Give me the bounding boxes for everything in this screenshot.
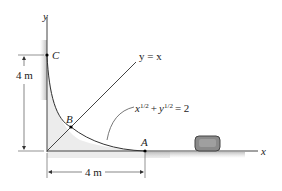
curve-label-leader [107, 107, 134, 140]
line-y-equals-x [47, 62, 136, 151]
ground-shading [145, 152, 245, 158]
curve-label-exp-x: 1/2 [140, 102, 149, 110]
crate-highlight [199, 139, 216, 147]
point-a-label: A [140, 136, 148, 148]
dim-h-arrow-right [140, 170, 144, 174]
point-b-marker [69, 125, 72, 128]
dim-v-arrow-top [22, 56, 26, 60]
point-c-label: C [52, 49, 60, 61]
curve-label: x1/2+y1/2= 2 [134, 102, 189, 114]
x-axis-label: x [260, 145, 266, 157]
point-b-label: B [66, 113, 73, 125]
curve-label-eq: = 2 [175, 102, 189, 114]
point-c-marker [45, 53, 48, 56]
dim-vertical-label: 4 m [16, 69, 33, 81]
curve-label-exp-y: 1/2 [164, 102, 173, 110]
diagram-canvas: y x C B A y = x x1/2+y1/2= 2 4 m 4 m [0, 0, 282, 191]
point-a-marker [143, 149, 146, 152]
wall-shading [40, 40, 47, 100]
line-label-text: y = x [139, 50, 162, 62]
y-axis-label: y [42, 10, 48, 22]
curve-label-plus: + [151, 102, 157, 114]
dim-v-arrow-bottom [22, 146, 26, 150]
dim-h-arrow-left [48, 170, 52, 174]
diagram-svg: y x C B A y = x x1/2+y1/2= 2 4 m 4 m [0, 0, 282, 191]
line-label: y = x [139, 50, 162, 62]
dim-horizontal-label: 4 m [85, 166, 102, 178]
